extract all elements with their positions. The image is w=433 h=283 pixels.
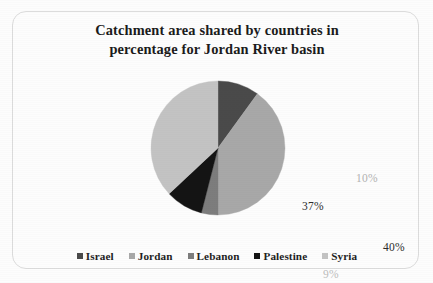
chart-card: Catchment area shared by countries in pe… [0, 0, 433, 283]
pie-label-israel: 10% [356, 172, 378, 184]
legend-item-palestine[interactable]: Palestine [254, 250, 307, 262]
legend-swatch-syria [322, 253, 328, 259]
legend-item-syria[interactable]: Syria [322, 250, 357, 262]
pie-chart-svg [145, 78, 295, 233]
legend-label-lebanon: Lebanon [197, 250, 240, 262]
legend-label-jordan: Jordan [138, 250, 173, 262]
chart-title-line-1: Catchment area shared by countries in [42, 21, 392, 40]
legend-label-syria: Syria [331, 250, 357, 262]
legend-swatch-palestine [254, 253, 260, 259]
pie-chart-plot-area: 10% 40% 4% 9% 37% [145, 78, 295, 233]
pie-label-syria: 37% [302, 200, 324, 212]
legend-label-israel: Israel [86, 250, 114, 262]
legend-label-palestine: Palestine [263, 250, 307, 262]
chart-title-line-2: percentage for Jordan River basin [42, 40, 392, 59]
pie-label-jordan: 40% [383, 241, 405, 253]
legend-item-jordan[interactable]: Jordan [129, 250, 173, 262]
legend-item-lebanon[interactable]: Lebanon [188, 250, 240, 262]
pie-label-palestine: 9% [323, 268, 339, 280]
legend-item-israel[interactable]: Israel [77, 250, 114, 262]
legend-swatch-israel [77, 253, 83, 259]
chart-legend: Israel Jordan Lebanon Palestine Syria [56, 248, 378, 264]
legend-swatch-lebanon [188, 253, 194, 259]
chart-title: Catchment area shared by countries in pe… [42, 21, 392, 59]
legend-swatch-jordan [129, 253, 135, 259]
